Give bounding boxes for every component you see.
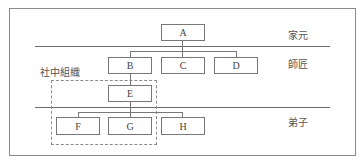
node-d-label: D [232,60,239,71]
connector [130,74,131,85]
node-b-label: B [127,60,134,71]
level-label-shisho: 師匠 [288,56,308,71]
node-a-label: A [179,27,186,38]
group-label-shachu: 社中組織 [40,64,80,79]
node-a: A [161,24,205,41]
node-d: D [214,57,258,74]
connector [78,112,183,113]
node-f-label: F [75,121,81,132]
node-f: F [56,117,100,135]
level-label-iemoto: 家元 [288,27,308,42]
node-g: G [108,117,152,135]
node-e-label: E [127,88,133,99]
connector [182,41,183,57]
node-h-label: H [179,121,186,132]
node-h: H [161,117,205,135]
level-label-deshi: 弟子 [288,114,308,129]
node-g-label: G [126,121,133,132]
connector [130,51,237,52]
node-c: C [161,57,205,74]
connector [130,102,131,117]
node-b: B [108,57,152,74]
node-e: E [108,85,152,102]
node-c-label: C [180,60,187,71]
